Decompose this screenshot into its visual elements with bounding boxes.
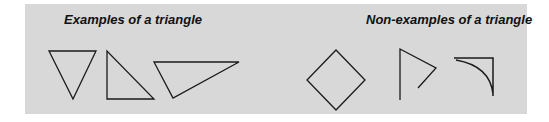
obtuse-triangle bbox=[154, 62, 239, 98]
diamond-square bbox=[307, 50, 365, 110]
examples-section: Examples of a triangle bbox=[25, 4, 276, 114]
curved-side-figure bbox=[454, 58, 493, 96]
non-examples-section: Non-examples of a triangle bbox=[276, 4, 527, 114]
examples-shapes bbox=[25, 4, 276, 114]
open-angle-figure bbox=[400, 49, 436, 100]
triangle-examples-panel: Examples of a triangle Non-examples of a… bbox=[25, 4, 527, 114]
inverted-triangle bbox=[49, 51, 96, 99]
non-examples-shapes bbox=[276, 4, 527, 114]
right-triangle bbox=[107, 51, 154, 99]
